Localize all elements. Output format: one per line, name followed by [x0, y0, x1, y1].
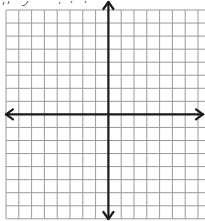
axes	[6, 2, 203, 219]
coordinate-plane	[0, 0, 205, 221]
cut-off-text-marks	[3, 1, 86, 6]
